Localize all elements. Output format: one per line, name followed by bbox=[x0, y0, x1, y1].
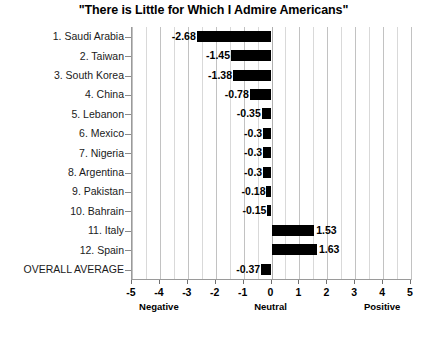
x-tick-mark bbox=[410, 280, 411, 284]
bar bbox=[267, 205, 271, 216]
gridline bbox=[285, 27, 286, 279]
gridline bbox=[341, 27, 342, 279]
gridline bbox=[411, 27, 412, 279]
gridline bbox=[355, 27, 356, 279]
gridline bbox=[188, 27, 189, 279]
category-axis: 1. Saudi Arabia2. Taiwan3. South Korea4.… bbox=[0, 27, 124, 279]
category-label: 3. South Korea bbox=[0, 69, 124, 81]
bar-value-label: -0.3 bbox=[244, 147, 262, 158]
bar bbox=[261, 264, 271, 275]
category-label: 11. Italy bbox=[0, 224, 124, 236]
bar-value-label: -0.35 bbox=[237, 108, 261, 119]
bar bbox=[197, 31, 272, 42]
x-tick-mark bbox=[326, 280, 327, 284]
bar bbox=[266, 186, 271, 197]
bar-value-label: -0.3 bbox=[244, 167, 262, 178]
chart-container: "There is Little for Which I Admire Amer… bbox=[0, 0, 427, 338]
bar-value-label: -0.18 bbox=[242, 186, 266, 197]
x-tick-label: -4 bbox=[147, 286, 171, 298]
x-tick-mark bbox=[215, 280, 216, 284]
x-tick-mark bbox=[271, 280, 272, 284]
x-tick-mark bbox=[354, 280, 355, 284]
x-tick-mark bbox=[382, 280, 383, 284]
bar-value-label: -0.37 bbox=[236, 264, 260, 275]
x-tick-label: -3 bbox=[175, 286, 199, 298]
gridline bbox=[299, 27, 300, 279]
gridline bbox=[132, 27, 133, 279]
gridline bbox=[313, 27, 314, 279]
gridline bbox=[216, 27, 217, 279]
gridline bbox=[230, 27, 231, 279]
bar bbox=[263, 128, 271, 139]
bar bbox=[272, 244, 317, 255]
x-tick-mark bbox=[243, 280, 244, 284]
bar-value-label: -0.3 bbox=[244, 128, 262, 139]
category-label: OVERALL AVERAGE bbox=[0, 263, 124, 275]
chart-title: "There is Little for Which I Admire Amer… bbox=[0, 3, 427, 17]
bar bbox=[231, 50, 271, 61]
gridline bbox=[202, 27, 203, 279]
x-tick-label: 4 bbox=[370, 286, 394, 298]
x-tick-label: 1 bbox=[286, 286, 310, 298]
x-tick-label: 0 bbox=[259, 286, 283, 298]
category-label: 2. Taiwan bbox=[0, 50, 124, 62]
bar bbox=[233, 70, 272, 81]
gridline bbox=[160, 27, 161, 279]
gridline bbox=[174, 27, 175, 279]
bar-value-label: -0.15 bbox=[242, 205, 266, 216]
bar bbox=[263, 147, 271, 158]
category-label: 5. Lebanon bbox=[0, 108, 124, 120]
x-tick-mark bbox=[298, 280, 299, 284]
x-tick-label: 2 bbox=[314, 286, 338, 298]
x-tick-label: 3 bbox=[342, 286, 366, 298]
x-axis-annotation: Negative bbox=[119, 301, 199, 312]
category-label: 7. Nigeria bbox=[0, 147, 124, 159]
x-axis: -5-4-3-2-1012345NegativeNeutralPositive bbox=[131, 280, 410, 335]
gridline bbox=[146, 27, 147, 279]
category-label: 1. Saudi Arabia bbox=[0, 30, 124, 42]
x-axis-annotation: Positive bbox=[342, 301, 422, 312]
bar-value-label: -0.78 bbox=[225, 89, 249, 100]
x-tick-label: 5 bbox=[398, 286, 422, 298]
bar-value-label: 1.53 bbox=[316, 225, 336, 236]
x-tick-label: -1 bbox=[231, 286, 255, 298]
bar-value-label: -1.45 bbox=[206, 50, 230, 61]
bar bbox=[262, 108, 272, 119]
bar-value-label: 1.63 bbox=[319, 244, 339, 255]
x-tick-mark bbox=[187, 280, 188, 284]
gridline bbox=[327, 27, 328, 279]
gridline bbox=[397, 27, 398, 279]
x-tick-label: -5 bbox=[119, 286, 143, 298]
category-label: 10. Bahrain bbox=[0, 205, 124, 217]
x-tick-label: -2 bbox=[203, 286, 227, 298]
category-label: 6. Mexico bbox=[0, 127, 124, 139]
bar-value-label: -1.38 bbox=[208, 70, 232, 81]
category-label: 8. Argentina bbox=[0, 166, 124, 178]
plot-area: -2.68-1.45-1.38-0.78-0.35-0.3-0.3-0.3-0.… bbox=[131, 27, 412, 280]
x-tick-mark bbox=[131, 280, 132, 284]
category-label: 9. Pakistan bbox=[0, 185, 124, 197]
category-label: 12. Spain bbox=[0, 244, 124, 256]
gridline bbox=[383, 27, 384, 279]
bar bbox=[272, 225, 315, 236]
bar-value-label: -2.68 bbox=[172, 31, 196, 42]
gridline bbox=[369, 27, 370, 279]
x-axis-annotation: Neutral bbox=[231, 301, 311, 312]
x-tick-mark bbox=[159, 280, 160, 284]
gridline bbox=[272, 27, 273, 279]
bar bbox=[250, 89, 272, 100]
category-label: 4. China bbox=[0, 88, 124, 100]
bar bbox=[263, 167, 271, 178]
